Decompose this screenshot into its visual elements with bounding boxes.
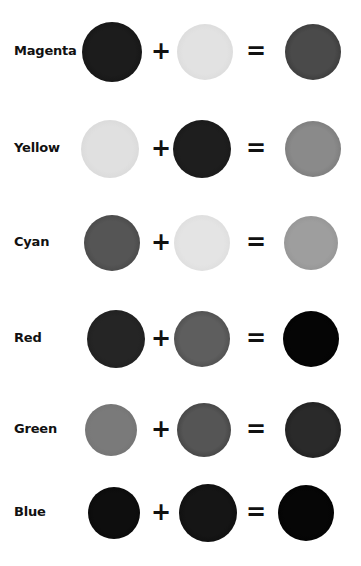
paint-swatch-result (285, 402, 341, 458)
paint-swatch-complement (179, 484, 237, 542)
paint-swatch-base (82, 22, 142, 82)
color-label: Blue (14, 504, 46, 519)
paint-swatch-complement (173, 120, 231, 178)
paint-swatch-complement (174, 215, 230, 271)
paint-swatch-base (84, 215, 140, 271)
paint-swatch-complement (177, 24, 233, 80)
equals-sign: = (246, 134, 266, 162)
color-label: Yellow (14, 140, 60, 155)
equals-sign: = (246, 498, 266, 526)
paint-swatch-complement (174, 311, 230, 367)
mix-row-yellow: Yellow+= (0, 114, 361, 184)
mix-row-green: Green+= (0, 395, 361, 465)
mix-row-red: Red+= (0, 304, 361, 374)
paint-swatch-result (285, 121, 341, 177)
plus-sign: + (151, 324, 171, 352)
plus-sign: + (151, 134, 171, 162)
equals-sign: = (246, 324, 266, 352)
paint-swatch-base (85, 404, 137, 456)
color-label: Magenta (14, 43, 77, 58)
plus-sign: + (151, 415, 171, 443)
paint-swatch-result (278, 485, 334, 541)
equals-sign: = (246, 37, 266, 65)
paint-swatch-base (81, 120, 139, 178)
color-label: Green (14, 421, 57, 436)
equals-sign: = (246, 415, 266, 443)
mix-row-cyan: Cyan+= (0, 208, 361, 278)
paint-swatch-result (284, 216, 338, 270)
color-label: Red (14, 330, 42, 345)
plus-sign: + (151, 498, 171, 526)
mix-row-blue: Blue+= (0, 478, 361, 548)
paint-swatch-result (285, 24, 341, 80)
plus-sign: + (151, 37, 171, 65)
paint-swatch-base (87, 310, 145, 368)
equals-sign: = (246, 228, 266, 256)
plus-sign: + (151, 228, 171, 256)
mix-row-magenta: Magenta+= (0, 17, 361, 87)
color-label: Cyan (14, 234, 49, 249)
paint-swatch-result (283, 311, 339, 367)
paint-swatch-base (88, 487, 140, 539)
paint-swatch-complement (177, 403, 231, 457)
